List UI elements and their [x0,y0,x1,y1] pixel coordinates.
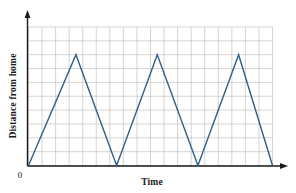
x-axis-label: Time [141,177,163,187]
distance-time-chart: Distance from home Time 0 [0,0,296,193]
chart-page: Distance from home Time 0 [0,0,296,193]
origin-label: 0 [18,170,23,180]
y-axis-label: Distance from home [8,53,18,138]
chart-figure: Distance from home Time 0 [0,0,296,193]
